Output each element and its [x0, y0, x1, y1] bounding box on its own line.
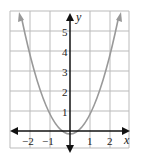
- y-tick-2: 2: [62, 86, 68, 98]
- curve-arrow-left-icon: [18, 12, 24, 22]
- x-axis-label: x: [123, 133, 130, 147]
- y-axis-label: y: [75, 10, 82, 24]
- y-tick-3: 3: [62, 66, 68, 78]
- x-tick-neg1: −1: [42, 135, 54, 147]
- y-tick-1: 1: [62, 106, 68, 118]
- x-tick-neg2: −2: [22, 135, 34, 147]
- y-tick-5: 5: [62, 26, 68, 38]
- parabola-chart: y x 5 4 3 2 1 −2 −1 1 2: [0, 0, 141, 155]
- arrow-up-icon: [66, 13, 74, 21]
- x-tick-1: 1: [87, 135, 93, 147]
- arrow-down-icon: [66, 145, 74, 153]
- curve-arrow-right-icon: [116, 12, 122, 22]
- y-tick-4: 4: [62, 46, 68, 58]
- x-tick-2: 2: [107, 135, 113, 147]
- arrow-left-icon: [10, 127, 18, 135]
